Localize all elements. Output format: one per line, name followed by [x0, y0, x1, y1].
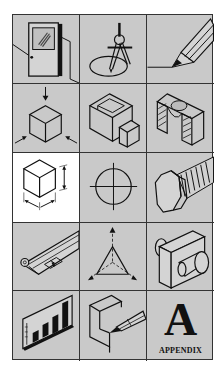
appendix-letter: A	[147, 295, 214, 345]
cell-section-view[interactable]	[147, 84, 214, 153]
cell-circle-centerline[interactable]	[80, 153, 147, 223]
cell-compass[interactable]	[80, 15, 147, 84]
door-icon	[13, 15, 79, 83]
cell-cube-views[interactable]	[13, 84, 80, 153]
block-with-cylinder-icon	[147, 223, 214, 290]
blueprint-scroll-icon	[13, 223, 79, 290]
isometric-axes-icon	[80, 223, 146, 290]
cell-pencil[interactable]	[147, 15, 214, 84]
circle-centerline-icon	[80, 153, 146, 222]
cell-block-cylinder[interactable]	[147, 223, 214, 291]
pencil-icon	[147, 15, 214, 83]
cell-cube-dimensions[interactable]	[13, 153, 80, 223]
cell-door[interactable]	[13, 15, 80, 84]
cell-isometric-axes[interactable]	[80, 223, 147, 291]
appendix-label: APPENDIX	[147, 346, 214, 355]
cell-blueprint[interactable]	[13, 223, 80, 291]
cube-dimensions-icon	[13, 153, 79, 222]
pencil-on-block-icon	[80, 291, 146, 361]
cell-hollow-block[interactable]	[80, 84, 147, 153]
hollow-block-icon	[80, 84, 146, 152]
cell-hex-bolt[interactable]	[147, 153, 214, 223]
bar-chart-board-icon	[13, 291, 79, 361]
cell-pencil-block[interactable]	[80, 291, 147, 361]
compass-drawing-icon	[80, 15, 146, 83]
chapter-icon-grid: A APPENDIX	[12, 14, 213, 360]
hex-bolt-icon	[147, 153, 214, 222]
isometric-cube-views-icon	[13, 84, 79, 152]
section-view-icon	[147, 84, 214, 152]
cell-appendix[interactable]: A APPENDIX	[147, 291, 214, 361]
cell-bar-chart[interactable]	[13, 291, 80, 361]
